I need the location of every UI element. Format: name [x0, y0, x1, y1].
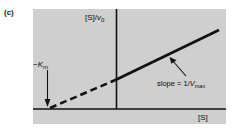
x-axis-label: [S]	[198, 113, 208, 122]
slope-arrowhead-icon	[170, 57, 177, 64]
slope-annotation-text: slope = 1/	[157, 79, 190, 88]
slope-annotation-symbol: V	[190, 79, 195, 88]
y-axis-label: [S]/v0	[85, 13, 104, 23]
slope-annotation-subscript: max	[195, 83, 205, 89]
km-arrowhead-icon	[45, 99, 51, 107]
slope-annotation: slope = 1/Vmax	[157, 79, 205, 89]
y-axis-label-numerator: [S]	[85, 13, 95, 22]
regression-solid-line	[117, 30, 220, 80]
x-intercept-subscript: m	[43, 64, 48, 70]
x-intercept-label: −Km	[33, 60, 48, 70]
figure-panel-c: (c) [S]/v0 [S] −Km slope = 1/Vmax	[0, 0, 240, 133]
slope-callout-line	[172, 60, 186, 76]
extrapolation-dashed-line	[50, 80, 117, 109]
y-axis-label-denominator-subscript: 0	[101, 17, 104, 23]
